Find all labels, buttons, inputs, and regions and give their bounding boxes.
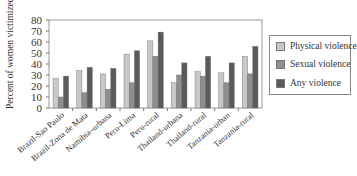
bar [171, 83, 176, 108]
bar [229, 63, 234, 108]
bar [195, 72, 200, 108]
legend-swatch-sexual [276, 60, 285, 69]
bar [224, 83, 229, 108]
bar [177, 75, 182, 108]
y-axis-label: Percent of women victimized [5, 25, 15, 109]
bar [77, 71, 82, 108]
bar [129, 83, 134, 108]
bar [242, 56, 247, 108]
bar [53, 78, 58, 108]
legend-label-physical: Physical violence [290, 41, 357, 51]
bar [124, 54, 129, 108]
plot-area [49, 20, 262, 108]
y-tick-label: 0 [37, 102, 43, 114]
bar [100, 74, 105, 108]
bar [111, 68, 116, 108]
bar [58, 97, 63, 108]
legend-item-sexual: Sexual violence [276, 59, 350, 69]
legend-swatch-physical [276, 42, 285, 51]
y-tick-label: 10 [31, 91, 43, 103]
legend: Physical violence Sexual violence Any vi… [269, 35, 351, 95]
bar [205, 56, 210, 108]
bar [82, 93, 87, 108]
bar [153, 56, 158, 108]
bar [148, 41, 153, 108]
y-tick-label: 80 [31, 14, 43, 26]
legend-item-physical: Physical violence [276, 41, 357, 51]
bar [219, 73, 224, 108]
bar [106, 89, 111, 108]
legend-label-any: Any violence [290, 78, 341, 88]
y-tick-label: 20 [31, 80, 43, 92]
legend-swatch-any [276, 79, 285, 88]
bar [87, 67, 92, 108]
bar [63, 76, 68, 108]
bar [200, 76, 205, 108]
y-tick-label: 30 [31, 69, 43, 81]
bar [158, 32, 163, 108]
y-axis: 01020304050607080 [31, 14, 49, 114]
y-tick-label: 50 [31, 47, 43, 59]
bar [182, 63, 187, 108]
bar [248, 74, 253, 108]
legend-item-any: Any violence [276, 78, 341, 88]
y-tick-label: 60 [31, 36, 43, 48]
x-axis: Brazil-Sao PauloBrazil-Zona de MataNamib… [15, 108, 256, 163]
bar [134, 51, 139, 108]
bar [253, 46, 258, 108]
legend-label-sexual: Sexual violence [290, 59, 350, 69]
y-tick-label: 70 [31, 25, 43, 37]
y-tick-label: 40 [31, 58, 43, 70]
